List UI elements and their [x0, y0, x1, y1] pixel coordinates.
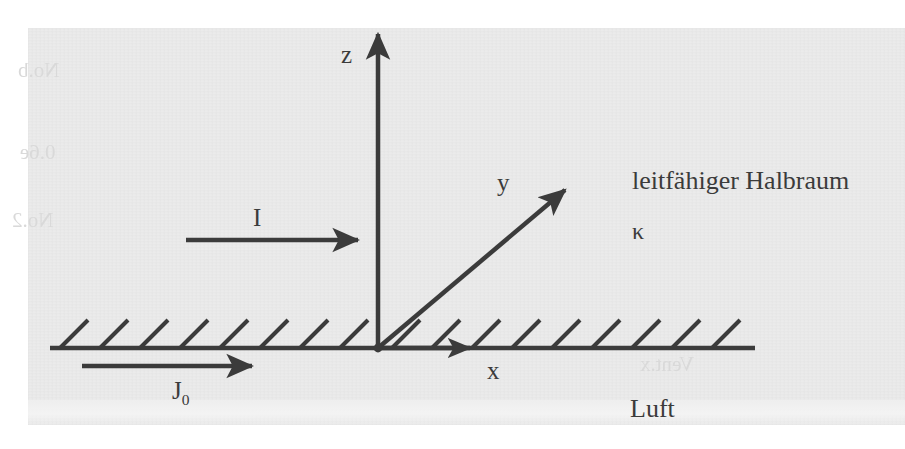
conductivity-kappa-label: κ [632, 219, 644, 243]
upper-region-label: leitfähiger Halbraum [632, 168, 849, 194]
diagram-artwork [0, 0, 905, 449]
hatching-group [60, 320, 740, 348]
current-I-label: I [253, 205, 261, 230]
figure-canvas: No.b 0.6e No.2 Vent.x [0, 0, 905, 449]
y-axis-label: y [497, 170, 510, 195]
x-axis-label: x [487, 358, 500, 383]
surface-current-J0-subscript: 0 [182, 391, 190, 408]
surface-current-J0-label: J0 [172, 378, 189, 408]
lower-region-label: Luft [630, 396, 675, 422]
z-axis-label: z [341, 42, 352, 67]
origin-point [374, 344, 383, 353]
surface-current-J0-symbol: J [172, 377, 182, 404]
